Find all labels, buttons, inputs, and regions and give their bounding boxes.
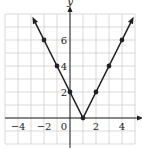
line-arrow-left-icon bbox=[32, 17, 38, 25]
data-point bbox=[81, 116, 86, 121]
data-point bbox=[107, 64, 112, 69]
x-tick-label: 4 bbox=[119, 121, 125, 132]
absolute-value-graph: xy−4−2024246 bbox=[0, 0, 142, 149]
y-tick-label: 2 bbox=[61, 87, 67, 98]
data-point bbox=[94, 90, 99, 95]
y-tick-label: 4 bbox=[61, 61, 67, 72]
y-tick-label: 6 bbox=[61, 35, 67, 46]
x-axis-arrow-icon bbox=[137, 116, 142, 121]
x-tick-label: −4 bbox=[11, 121, 26, 132]
line-arrow-right-icon bbox=[128, 17, 134, 25]
x-tick-label: 2 bbox=[93, 121, 99, 132]
data-point bbox=[55, 64, 60, 69]
x-tick-label: 0 bbox=[61, 121, 67, 132]
data-point bbox=[42, 38, 47, 43]
y-axis-label: y bbox=[66, 0, 74, 8]
data-point bbox=[120, 38, 125, 43]
x-tick-label: −2 bbox=[37, 121, 52, 132]
data-point bbox=[68, 90, 73, 95]
